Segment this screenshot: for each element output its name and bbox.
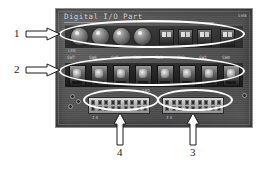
pin	[165, 106, 169, 111]
led-large-3	[113, 28, 130, 45]
pin	[91, 100, 95, 105]
pin	[165, 100, 169, 105]
pin	[111, 100, 115, 105]
switch-label-sw6: SW6	[89, 55, 97, 60]
switch-label-sw2: SW2	[177, 55, 185, 60]
pin	[98, 100, 102, 105]
led-row	[65, 25, 243, 48]
push-button-sw5[interactable]	[113, 65, 130, 87]
callout-arrow-3-icon	[186, 112, 200, 146]
callout-arrow-2-icon	[25, 63, 61, 77]
pin	[104, 106, 108, 111]
pin	[91, 106, 95, 111]
push-button-sw7[interactable]	[69, 65, 86, 87]
right-header-caption: J3	[166, 115, 173, 120]
switch-row	[65, 63, 243, 87]
pin	[137, 106, 141, 111]
push-button-sw1[interactable]	[201, 65, 218, 87]
left-header-caption: J4	[92, 115, 99, 120]
led-small-3	[197, 29, 212, 47]
push-button-sw6[interactable]	[91, 65, 108, 87]
pin	[211, 100, 215, 105]
pin	[172, 100, 176, 105]
callout-number-3: 3	[190, 146, 196, 158]
pin	[217, 106, 221, 111]
switch-label-sw4: SW4	[133, 55, 141, 60]
pin	[204, 106, 208, 111]
pin	[178, 106, 182, 111]
switch-label-sw7: SW7	[67, 55, 75, 60]
pin	[130, 106, 134, 111]
pin-row-bottom	[164, 106, 222, 111]
pin	[217, 100, 221, 105]
pin	[143, 106, 147, 111]
led-row-label: LED	[68, 48, 76, 53]
ground-label: GND	[142, 88, 150, 93]
pin	[178, 100, 182, 105]
switch-label-sw1: SW1	[199, 55, 207, 60]
pin	[204, 100, 208, 105]
push-button-sw0[interactable]	[223, 65, 240, 87]
switch-label-sw5: SW5	[111, 55, 119, 60]
pin	[137, 100, 141, 105]
via-1	[70, 94, 75, 99]
callout-number-1: 1	[14, 27, 20, 39]
via-3	[68, 104, 73, 109]
pin	[111, 106, 115, 111]
pin	[211, 106, 215, 111]
led-small-2	[178, 29, 193, 47]
circuit-board: Digital I/O Part SW8 LED SW7 SW6 SW5 SW4…	[55, 8, 253, 128]
pin	[185, 100, 189, 105]
callout-arrow-1-icon	[25, 27, 61, 41]
switch-label-sw3: SW3	[155, 55, 163, 60]
pin	[124, 106, 128, 111]
pin	[130, 100, 134, 105]
callout-number-4: 4	[117, 146, 123, 158]
annotated-board-figure: Digital I/O Part SW8 LED SW7 SW6 SW5 SW4…	[0, 0, 263, 169]
pin	[191, 106, 195, 111]
pin	[117, 106, 121, 111]
callout-arrow-4-icon	[113, 112, 127, 146]
pin	[185, 106, 189, 111]
push-button-sw3[interactable]	[157, 65, 174, 87]
via-4	[242, 93, 247, 98]
corner-label-sw8: SW8	[238, 13, 247, 18]
pin	[198, 100, 202, 105]
push-button-sw2[interactable]	[179, 65, 196, 87]
switch-label-sw0: SW0	[222, 55, 230, 60]
push-button-sw4[interactable]	[135, 65, 152, 87]
pin	[98, 106, 102, 111]
board-title-silkscreen: Digital I/O Part	[64, 12, 143, 21]
callout-number-2: 2	[14, 63, 20, 75]
pin	[143, 100, 147, 105]
pin	[198, 106, 202, 111]
led-large-2	[92, 28, 109, 45]
pin	[124, 100, 128, 105]
pin	[191, 100, 195, 105]
pin	[104, 100, 108, 105]
led-small-4	[220, 29, 235, 47]
via-2	[76, 99, 81, 104]
led-large-1	[71, 28, 88, 45]
led-large-4	[134, 28, 151, 45]
pin	[117, 100, 121, 105]
led-small-1	[159, 29, 174, 47]
pin-row-bottom	[90, 106, 148, 111]
pin	[172, 106, 176, 111]
title-underline	[64, 22, 214, 23]
pin-row-top	[90, 100, 148, 105]
pin-row-top	[164, 100, 222, 105]
